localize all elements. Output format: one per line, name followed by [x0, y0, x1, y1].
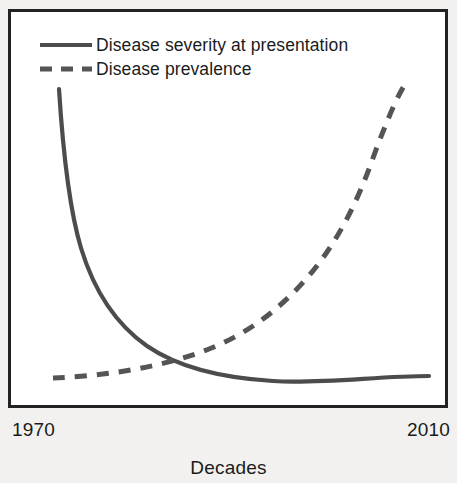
x-axis-tick-label-start: 1970: [12, 419, 55, 441]
series-line-disease-severity: [59, 89, 429, 382]
legend-item-disease-prevalence: Disease prevalence: [36, 57, 416, 81]
legend-swatch-solid-line-icon: [36, 33, 96, 57]
legend-label-disease-severity: Disease severity at presentation: [96, 33, 348, 57]
legend-label-disease-prevalence: Disease prevalence: [96, 57, 252, 81]
x-axis-title: Decades: [0, 457, 457, 479]
figure-container: Disease severity at presentation Disease…: [0, 0, 457, 483]
plot-frame: Disease severity at presentation Disease…: [8, 9, 448, 408]
series-line-disease-prevalence: [53, 86, 404, 378]
x-axis-tick-label-end: 2010: [407, 419, 450, 441]
legend-item-disease-severity: Disease severity at presentation: [36, 33, 416, 57]
chart-legend: Disease severity at presentation Disease…: [36, 33, 416, 81]
legend-swatch-dashed-line-icon: [36, 57, 96, 81]
